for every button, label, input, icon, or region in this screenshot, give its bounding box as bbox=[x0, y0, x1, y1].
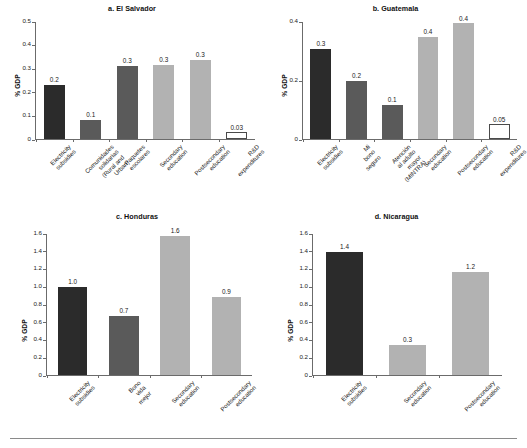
panel-title: d. Nicaragua bbox=[274, 212, 519, 221]
y-tick-mark bbox=[299, 140, 302, 141]
bar[interactable]: 0.05 bbox=[489, 124, 510, 139]
bar[interactable]: 1.0 bbox=[58, 287, 88, 375]
y-tick-mark bbox=[32, 45, 35, 46]
y-tick-mark bbox=[32, 140, 35, 141]
bar[interactable]: 0.4 bbox=[453, 23, 474, 139]
panel-b-guatemala: b. Guatemala % GDP 00.20.4 0.30.20.10.40… bbox=[264, 4, 527, 204]
y-axis-label: % GDP bbox=[281, 66, 288, 106]
x-axis-category-label: Mi bono seguro bbox=[353, 143, 382, 172]
panel-title: c. Honduras bbox=[10, 212, 264, 221]
bar-value-label: 1.6 bbox=[171, 228, 180, 234]
y-tick-mark bbox=[309, 305, 312, 306]
x-tick-mark bbox=[219, 139, 220, 142]
y-tick-label: 0.5 bbox=[22, 18, 31, 24]
bar-series-a: 0.20.10.30.30.30.03 bbox=[36, 22, 255, 139]
y-tick-label: 0.4 bbox=[22, 41, 31, 47]
x-tick-mark bbox=[339, 139, 340, 142]
panel-d-nicaragua: d. Nicaragua % GDP 00.20.40.60.81.01.21.… bbox=[274, 212, 519, 440]
bar-slot: 1.6 bbox=[150, 234, 201, 375]
bar[interactable]: 0.1 bbox=[80, 120, 101, 139]
x-axis-category-label: Comunidades solidarias (Rural and Urban) bbox=[83, 143, 131, 191]
y-tick-label: 1.4 bbox=[299, 248, 308, 254]
bar[interactable]: 0.3 bbox=[117, 66, 138, 139]
y-tick-mark bbox=[309, 251, 312, 252]
bar[interactable]: 0.3 bbox=[310, 49, 331, 139]
bar[interactable]: 0.4 bbox=[418, 37, 439, 139]
x-axis-category-label: Bono vida mejor bbox=[119, 379, 153, 413]
y-tick-mark bbox=[43, 234, 46, 235]
x-axis-line bbox=[312, 375, 502, 376]
x-tick-mark bbox=[313, 375, 314, 378]
y-tick-label: 0.2 bbox=[289, 77, 298, 83]
y-tick-mark bbox=[32, 69, 35, 70]
x-tick-mark bbox=[150, 375, 151, 378]
bar[interactable]: 0.2 bbox=[346, 81, 367, 140]
plot-area-a: 00.10.20.30.40.5 0.20.10.30.30.30.03 bbox=[35, 22, 255, 140]
bar-slot: 0.3 bbox=[109, 22, 146, 139]
x-tick-mark bbox=[146, 139, 147, 142]
bar[interactable]: 0.03 bbox=[226, 132, 247, 139]
y-tick-mark bbox=[32, 22, 35, 23]
x-tick-mark bbox=[201, 375, 202, 378]
bar-slot: 0.3 bbox=[182, 22, 219, 139]
x-tick-mark bbox=[376, 375, 377, 378]
y-tick-label: 0.4 bbox=[299, 336, 308, 342]
y-tick-mark bbox=[43, 287, 46, 288]
panel-title: b. Guatemala bbox=[264, 4, 527, 13]
bar-slot: 0.05 bbox=[481, 22, 517, 139]
x-tick-mark bbox=[182, 139, 183, 142]
panel-title: a. El Salvador bbox=[0, 4, 264, 13]
x-tick-mark bbox=[374, 139, 375, 142]
bar-slot: 0.3 bbox=[376, 234, 439, 375]
x-axis-category-label: R&D expenditures bbox=[230, 143, 265, 178]
bar-value-label: 1.2 bbox=[466, 264, 475, 270]
bar-value-label: 0.2 bbox=[50, 77, 59, 83]
bar-value-label: 0.3 bbox=[316, 41, 325, 47]
bar-slot: 0.2 bbox=[339, 22, 375, 139]
bar-value-label: 0.05 bbox=[493, 117, 505, 123]
y-tick-mark bbox=[32, 92, 35, 93]
y-tick-label: 0.8 bbox=[299, 301, 308, 307]
bar-series-d: 1.40.31.2 bbox=[313, 234, 502, 375]
y-tick-label: 1.0 bbox=[33, 283, 42, 289]
bar[interactable]: 1.4 bbox=[326, 252, 363, 375]
x-axis-category-label: Postsecondary education bbox=[456, 143, 495, 182]
y-tick-mark bbox=[309, 340, 312, 341]
bar-slot: 0.4 bbox=[410, 22, 446, 139]
x-tick-mark bbox=[446, 139, 447, 142]
bar-value-label: 0.3 bbox=[403, 337, 412, 343]
x-axis-category-label: Secondary education bbox=[158, 143, 189, 174]
bar[interactable]: 0.3 bbox=[389, 345, 426, 375]
y-axis-label: % GDP bbox=[14, 66, 21, 106]
bar[interactable]: 1.6 bbox=[160, 236, 190, 375]
bar-series-b: 0.30.20.10.40.40.05 bbox=[303, 22, 517, 139]
x-tick-mark bbox=[98, 375, 99, 378]
bar-slot: 0.3 bbox=[146, 22, 183, 139]
bar-slot: 0.3 bbox=[303, 22, 339, 139]
x-axis-category-label: Postsecondary education bbox=[219, 379, 258, 418]
bar-value-label: 0.3 bbox=[196, 52, 205, 58]
bar[interactable]: 0.7 bbox=[109, 316, 139, 375]
y-tick-label: 0.2 bbox=[22, 89, 31, 95]
y-tick-label: 1.4 bbox=[33, 248, 42, 254]
bar[interactable]: 1.2 bbox=[452, 272, 489, 375]
panel-a-el-salvador: a. El Salvador % GDP 00.10.20.30.40.5 0.… bbox=[0, 4, 264, 204]
bar[interactable]: 0.2 bbox=[44, 85, 65, 139]
x-axis-category-label: Electricity subsidies bbox=[49, 143, 78, 172]
bar[interactable]: 0.3 bbox=[190, 60, 211, 139]
y-tick-mark bbox=[43, 340, 46, 341]
y-tick-label: 0 bbox=[39, 372, 42, 378]
panel-c-honduras: c. Honduras % GDP 00.20.40.60.81.01.21.4… bbox=[10, 212, 264, 440]
y-tick-mark bbox=[32, 116, 35, 117]
y-tick-mark bbox=[309, 376, 312, 377]
bar[interactable]: 0.9 bbox=[212, 297, 242, 375]
bar-slot: 0.1 bbox=[374, 22, 410, 139]
y-axis-label: % GDP bbox=[21, 311, 28, 351]
y-tick-label: 0.2 bbox=[299, 354, 308, 360]
bar-slot: 0.9 bbox=[201, 234, 252, 375]
bar-value-label: 0.4 bbox=[423, 29, 432, 35]
bar[interactable]: 0.1 bbox=[382, 105, 403, 140]
bar-value-label: 0.03 bbox=[231, 125, 243, 131]
bar[interactable]: 0.3 bbox=[153, 65, 174, 139]
bar-slot: 1.2 bbox=[439, 234, 502, 375]
